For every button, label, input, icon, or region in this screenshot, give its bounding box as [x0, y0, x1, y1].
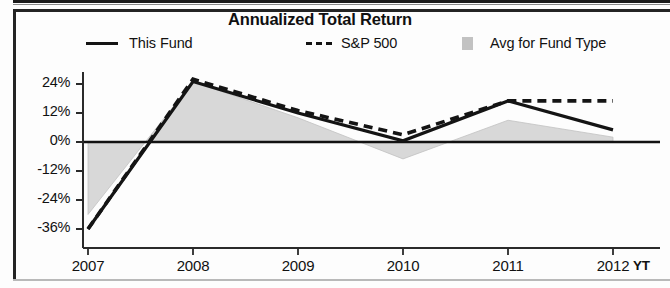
chart-panel: Annualized Total Return This Fund S&P 50… [0, 0, 670, 288]
chart-svg [0, 0, 670, 288]
y-axis-tick-label: 0% [8, 132, 70, 148]
plot-area [0, 0, 670, 288]
x-axis-tick-label: 2010 [363, 257, 443, 274]
x-axis-tick-label: 2008 [153, 257, 233, 274]
series-line-this-fund [88, 82, 613, 229]
avg-fund-type-area [88, 82, 613, 215]
y-axis-tick-label: 24% [8, 74, 70, 90]
series-line-sp500 [88, 79, 613, 229]
x-axis-ytd-label: YT [633, 258, 650, 273]
y-axis-tick-label: -24% [8, 190, 70, 206]
x-axis-tick-label: 2009 [258, 257, 338, 274]
x-axis-tick-label: 2011 [468, 257, 548, 274]
x-axis-tick-label: 2007 [48, 257, 128, 274]
y-axis-tick-label: 12% [8, 103, 70, 119]
y-axis-tick-label: -36% [8, 219, 70, 235]
y-axis-tick-label: -12% [8, 161, 70, 177]
